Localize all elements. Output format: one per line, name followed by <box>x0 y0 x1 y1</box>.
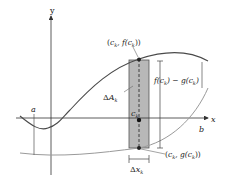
point-top-label: (ck, f(ck)) <box>107 38 141 48</box>
y-axis-label: y <box>49 6 55 15</box>
point-g-ck <box>137 146 141 150</box>
area-between-curves-figure: y x a b (ck, f(ck)) f(ck) − g(ck) ΔAk ck… <box>0 0 226 188</box>
height-label: f(ck) − g(ck) <box>153 76 199 86</box>
a-label: a <box>31 105 36 114</box>
point-bottom-label: (ck, g(ck)) <box>165 150 201 160</box>
curve-f <box>20 52 208 128</box>
leader-top <box>133 47 138 57</box>
diagram-canvas: y x a b (ck, f(ck)) f(ck) − g(ck) ΔAk ck… <box>0 0 226 188</box>
area-label: ΔAk <box>103 93 118 103</box>
b-label: b <box>199 125 204 134</box>
width-label: Δxk <box>130 165 143 175</box>
leader-bottom <box>141 149 165 154</box>
point-f-ck <box>137 58 141 62</box>
x-axis-label: x <box>211 115 216 124</box>
